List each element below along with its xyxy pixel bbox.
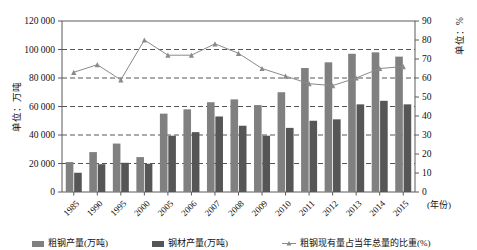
bar-粗钢产量万吨-1985 — [66, 162, 74, 192]
bar-钢材产量万吨-2006 — [192, 132, 200, 192]
left-axis-title: 单位：万吨 — [11, 82, 22, 132]
bar-粗钢产量万吨-2007 — [207, 102, 215, 192]
right-axis-tick-label: 90 — [422, 16, 432, 26]
bar-钢材产量万吨-1995 — [121, 163, 129, 192]
bar-钢材产量万吨-2012 — [333, 119, 341, 192]
line-marker-1990 — [95, 62, 100, 67]
bar-钢材产量万吨-1985 — [74, 173, 82, 192]
x-axis-year-label: 2010 — [273, 198, 293, 218]
bar-粗钢产量万吨-2008 — [231, 99, 239, 192]
x-axis-year-label: 1985 — [61, 198, 81, 218]
bar-粗钢产量万吨-2005 — [160, 114, 168, 192]
left-axis-tick-label: 20 000 — [29, 159, 55, 169]
line-marker-2010 — [283, 74, 288, 79]
bar-粗钢产量万吨-2010 — [278, 92, 286, 192]
line-marker-2008 — [236, 51, 241, 56]
bar-钢材产量万吨-2007 — [215, 116, 223, 192]
bar-钢材产量万吨-2013 — [357, 104, 365, 192]
bar-粗钢产量万吨-2015 — [395, 57, 403, 192]
legend-swatch-0 — [32, 241, 44, 247]
right-axis-tick-label: 40 — [422, 111, 432, 121]
line-marker-2000 — [142, 37, 147, 42]
x-axis-year-label: 1990 — [85, 198, 105, 218]
left-axis-tick-label: 60 000 — [29, 102, 55, 112]
left-axis-tick-label: 120 000 — [24, 16, 55, 26]
bar-粗钢产量万吨-2011 — [301, 68, 309, 192]
left-axis-tick-label: 0 — [50, 187, 55, 197]
bar-钢材产量万吨-2010 — [286, 128, 294, 192]
right-axis-title: 单位：% — [454, 17, 465, 55]
x-axis-year-label: 2011 — [297, 198, 317, 218]
x-axis-unit-label: (年份) — [427, 199, 451, 210]
right-axis-tick-label: 60 — [422, 73, 432, 83]
x-axis-year-label: 1995 — [108, 198, 128, 218]
x-axis-year-label: 2015 — [391, 198, 411, 218]
bar-钢材产量万吨-2005 — [168, 136, 176, 192]
right-axis-tick-label: 30 — [422, 130, 432, 140]
bar-钢材产量万吨-2008 — [239, 126, 247, 192]
bar-粗钢产量万吨-2006 — [183, 109, 191, 192]
bar-钢材产量万吨-2014 — [380, 101, 388, 192]
x-axis-year-label: 2007 — [203, 198, 223, 218]
legend-label-1: 钢材产量(万吨) — [168, 237, 228, 248]
bar-粗钢产量万吨-2009 — [254, 105, 262, 192]
bar-钢材产量万吨-2009 — [262, 136, 270, 192]
legend-label-0: 粗钢产量(万吨) — [48, 237, 108, 248]
x-axis-year-label: 2008 — [226, 198, 246, 218]
right-axis-tick-label: 20 — [422, 149, 432, 159]
x-axis-year-label: 2013 — [344, 198, 364, 218]
bar-钢材产量万吨-2011 — [310, 121, 318, 192]
legend-label-2: 粗钢现有量占当年总量的比重(%) — [300, 237, 431, 248]
right-axis-tick-label: 70 — [422, 54, 432, 64]
bar-粗钢产量万吨-1995 — [113, 144, 121, 192]
bar-钢材产量万吨-2000 — [145, 164, 153, 192]
x-axis-year-label: 2006 — [179, 198, 199, 218]
left-axis-tick-label: 80 000 — [29, 73, 55, 83]
combo-chart: 020 00040 00060 00080 000100 000120 0000… — [0, 0, 477, 250]
chart-container: 020 00040 00060 00080 000100 000120 0000… — [0, 0, 477, 250]
right-axis-tick-label: 10 — [422, 168, 432, 178]
bar-粗钢产量万吨-2000 — [136, 157, 144, 192]
line-marker-1985 — [71, 70, 76, 75]
x-axis-year-label: 2000 — [132, 198, 152, 218]
x-axis-year-label: 2009 — [250, 198, 270, 218]
x-axis-year-label: 2012 — [320, 198, 340, 218]
legend-swatch-1 — [152, 241, 164, 247]
right-axis-tick-label: 0 — [422, 187, 427, 197]
right-axis-tick-label: 80 — [422, 35, 432, 45]
bar-粗钢产量万吨-2014 — [372, 52, 380, 192]
bar-钢材产量万吨-1990 — [98, 164, 106, 192]
right-axis-tick-label: 50 — [422, 92, 432, 102]
line-marker-2009 — [259, 66, 264, 71]
x-axis-year-label: 2014 — [367, 198, 387, 218]
bar-粗钢产量万吨-2012 — [325, 62, 333, 192]
bar-钢材产量万吨-2015 — [404, 104, 412, 192]
bar-粗钢产量万吨-1990 — [89, 152, 97, 192]
left-axis-tick-label: 40 000 — [29, 130, 55, 140]
left-axis-tick-label: 100 000 — [24, 45, 55, 55]
bar-粗钢产量万吨-2013 — [348, 54, 356, 192]
x-axis-year-label: 2005 — [156, 198, 176, 218]
line-marker-2007 — [212, 41, 217, 46]
